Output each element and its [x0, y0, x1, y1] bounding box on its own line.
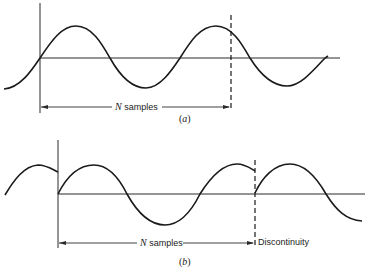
panel-b-n-samples-label: N samples [139, 237, 183, 248]
panel-b-repeated-wave [255, 164, 362, 221]
panel-a: N samples (a) [4, 3, 340, 125]
panel-b-discontinuity-label: Discontinuity [258, 237, 310, 247]
panel-a-caption: (a) [179, 113, 191, 125]
panel-a-n-samples-label: N samples [114, 101, 158, 112]
dft-windowing-diagram: N samples (a) N samples Discontinuity (b… [0, 0, 372, 273]
panel-b: N samples Discontinuity (b) [5, 140, 365, 268]
panel-b-pre-window-wave [5, 165, 58, 195]
panel-b-caption: (b) [179, 256, 191, 268]
